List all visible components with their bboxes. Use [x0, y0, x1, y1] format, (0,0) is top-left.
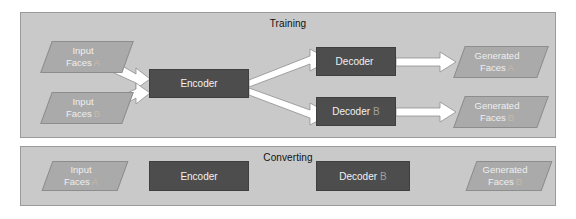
shape-conv-generated-faces-b [466, 161, 553, 191]
decoder-a-label: Decoder [336, 56, 374, 67]
box-encoder-converting: Encoder [149, 161, 249, 191]
shape-generated-faces-a [453, 46, 549, 78]
decoder-b-converting-label: Decoder [339, 171, 377, 182]
decoder-b-training-label: Decoder [332, 106, 370, 117]
shape-input-faces-a [40, 41, 134, 73]
shape-generated-faces-b [453, 96, 549, 128]
box-decoder-b-training: Decoder B [316, 97, 396, 126]
shape-input-faces-b [40, 92, 134, 124]
box-decoder-a: Decoder [316, 47, 396, 76]
box-decoder-b-converting: Decoder B [316, 161, 410, 191]
encoder-training-label: Encoder [180, 78, 217, 89]
decoder-b-converting-tag: B [380, 171, 387, 182]
shape-conv-input-faces-a [42, 161, 129, 191]
box-encoder-training: Encoder [149, 69, 249, 98]
diagram-canvas: Training Input FacesA Input [0, 0, 576, 219]
decoder-b-training-tag: B [373, 106, 380, 117]
panel-training-title: Training [21, 18, 555, 29]
encoder-converting-label: Encoder [180, 171, 217, 182]
